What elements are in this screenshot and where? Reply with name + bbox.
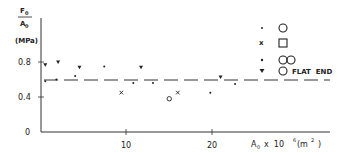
data-point-triangle-down: [43, 63, 47, 67]
legend-flat-end-label: FLAT END: [292, 68, 332, 76]
svg-text:2: 2: [311, 137, 314, 143]
data-point-dot: [132, 82, 134, 84]
y-tick-04: 0.4: [18, 93, 31, 102]
legend-triangle-marker: [260, 69, 265, 73]
svg-text:(m: (m: [297, 140, 308, 149]
data-point-x: [176, 91, 180, 95]
data-point-triangle-down: [56, 61, 60, 65]
data-point-dot: [234, 83, 236, 85]
data-point-dot: [103, 65, 105, 67]
svg-text:0: 0: [25, 10, 29, 16]
data-point-dot: [209, 92, 211, 94]
y-tick-0: 0: [25, 128, 30, 137]
data-point-dot: [74, 75, 76, 77]
data-point-circle: [167, 97, 171, 101]
legend-flat-end-circle-icon: [279, 67, 287, 75]
x-axis-label: A 0 x 10 6 (m 2 ): [251, 137, 321, 150]
data-point-dot: [44, 80, 46, 82]
svg-text:x 10: x 10: [264, 140, 284, 149]
data-point-triangle-down: [77, 66, 81, 70]
svg-text:0: 0: [257, 144, 260, 150]
legend-circle-icon: [279, 24, 287, 32]
svg-text:0: 0: [25, 23, 29, 29]
data-point-dot: [55, 79, 57, 81]
chart: F 0 A 0 (MPa) 0.8 0.4 0 10 20 A 0 x 10 6…: [0, 0, 350, 155]
svg-text:6: 6: [293, 137, 296, 143]
data-point-x: [120, 91, 124, 95]
svg-text:(MPa): (MPa): [15, 37, 38, 45]
legend-square-icon: [279, 39, 287, 47]
y-tick-08: 0.8: [18, 58, 31, 67]
data-point-triangle-down: [139, 66, 143, 70]
x-tick-20: 20: [207, 141, 217, 150]
legend-dot-marker-2: [261, 59, 263, 61]
data-point-dot: [152, 82, 154, 84]
x-tick-10: 10: [121, 141, 131, 150]
data-points: [43, 61, 236, 101]
data-point-triangle-down: [219, 75, 223, 79]
legend-double-circle-icon: [279, 56, 287, 64]
y-axis-label: F 0 A 0 (MPa): [15, 7, 38, 45]
legend: x FLAT END: [259, 24, 332, 76]
legend-dot-marker: [261, 27, 263, 29]
svg-text:): ): [318, 140, 321, 149]
legend-x-marker: x: [259, 39, 264, 47]
